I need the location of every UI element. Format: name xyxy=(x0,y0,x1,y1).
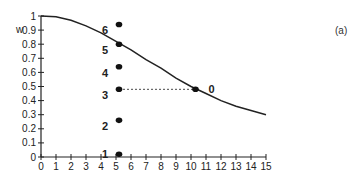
point-label: 6 xyxy=(102,24,108,36)
x-tick-label: 0 xyxy=(38,161,44,172)
y-axis-label: w xyxy=(15,24,24,35)
point-label: 2 xyxy=(102,120,108,132)
data-point xyxy=(116,41,123,47)
x-tick-label: 3 xyxy=(83,161,89,172)
y-tick-label: 0.1 xyxy=(22,137,36,148)
x-tick-label: 15 xyxy=(260,161,272,172)
x-tick-label: 14 xyxy=(245,161,257,172)
x-tick-label: 7 xyxy=(143,161,149,172)
panel-label: (a) xyxy=(335,25,347,36)
data-point xyxy=(192,87,199,93)
x-tick-label: 9 xyxy=(173,161,179,172)
w-curve xyxy=(41,16,266,115)
point-label: 1 xyxy=(102,148,108,160)
y-tick-label: 0.5 xyxy=(22,81,36,92)
chart: 012345678910111213141500.10.20.30.40.50.… xyxy=(0,0,361,183)
y-tick-label: 1 xyxy=(30,11,36,22)
data-point xyxy=(116,22,123,28)
data-point xyxy=(116,64,123,70)
y-tick-label: 0 xyxy=(30,152,36,163)
y-tick-label: 0.2 xyxy=(22,123,36,134)
data-point xyxy=(116,151,123,157)
y-tick-label: 0.9 xyxy=(22,25,36,36)
data-point xyxy=(116,87,123,93)
data-point xyxy=(116,118,123,124)
x-tick-label: 10 xyxy=(185,161,197,172)
y-tick-label: 0.6 xyxy=(22,67,36,78)
y-tick-label: 0.3 xyxy=(22,109,36,120)
x-tick-label: 1 xyxy=(53,161,59,172)
point-label: 3 xyxy=(102,89,108,101)
x-tick-label: 11 xyxy=(201,161,212,172)
point-label: 4 xyxy=(102,67,109,79)
y-tick-label: 0.7 xyxy=(22,53,36,64)
x-tick-label: 12 xyxy=(215,161,227,172)
point-label: 0 xyxy=(209,83,215,95)
x-tick-label: 6 xyxy=(128,161,134,172)
x-tick-label: 4 xyxy=(98,161,104,172)
x-tick-label: 2 xyxy=(68,161,74,172)
y-tick-label: 0.4 xyxy=(22,95,36,106)
x-tick-label: 8 xyxy=(158,161,164,172)
x-tick-label: 13 xyxy=(230,161,242,172)
point-label: 5 xyxy=(102,44,108,56)
y-tick-label: 0.8 xyxy=(22,39,36,50)
x-tick-label: 5 xyxy=(113,161,119,172)
